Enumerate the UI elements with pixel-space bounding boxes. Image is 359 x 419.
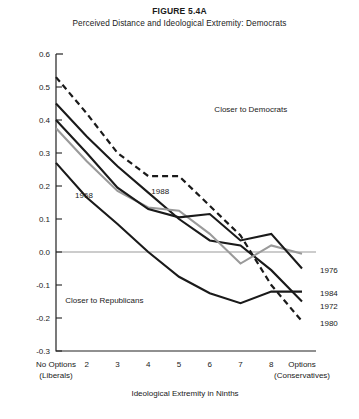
- chart-annotation: 1968: [75, 191, 93, 200]
- y-tick-label: 0.4: [39, 116, 51, 125]
- y-tick-label: -0.2: [36, 314, 50, 323]
- x-axis-title-text: Ideological Extremity in Ninths: [131, 389, 238, 398]
- axis-spines: [56, 54, 316, 351]
- x-tick-label: 2: [85, 360, 90, 369]
- series-end-label: 1980: [320, 319, 338, 328]
- chart-annotation: 1988: [151, 187, 169, 196]
- y-tick-label: 0.2: [39, 182, 51, 191]
- y-tick-label: 0.1: [39, 215, 51, 224]
- x-axis-tick-labels: No Options(Liberals)2345678Options(Conse…: [36, 360, 330, 380]
- chart-annotation: Closer to Democrats: [214, 105, 287, 114]
- x-axis-title: Ideological Extremity in Ninths: [131, 389, 238, 398]
- x-tick-label: 6: [208, 360, 213, 369]
- y-axis-tick-labels: 0.60.50.40.30.20.10.0-0.1-0.2-0.3: [36, 50, 50, 356]
- y-tick-label: 0.0: [39, 248, 51, 257]
- y-tick-label: -0.1: [36, 281, 50, 290]
- x-tick-label: 3: [115, 360, 120, 369]
- y-tick-label: 0.5: [39, 83, 51, 92]
- x-tick-label: No Options: [36, 360, 76, 369]
- series-end-label: 1976: [320, 266, 338, 275]
- x-tick-label-secondary: (Conservatives): [274, 371, 330, 380]
- x-tick-label: 8: [269, 360, 274, 369]
- y-tick-label: 0.6: [39, 50, 51, 59]
- y-tick-label: -0.3: [36, 347, 50, 356]
- x-tick-label-secondary: (Liberals): [39, 371, 73, 380]
- line-chart: 0.60.50.40.30.20.10.0-0.1-0.2-0.3 No Opt…: [0, 0, 359, 419]
- axis-lines: [56, 54, 316, 351]
- series-end-label: 1972: [320, 302, 338, 311]
- series-end-labels: 1976198419721980: [320, 266, 338, 328]
- y-tick-label: 0.3: [39, 149, 51, 158]
- series-line-1988: [56, 128, 302, 263]
- chart-plot-area: 0.60.50.40.30.20.10.0-0.1-0.2-0.3 No Opt…: [0, 0, 359, 419]
- x-tick-label: Options: [288, 360, 316, 369]
- x-tick-label: 7: [238, 360, 243, 369]
- series-end-label: 1984: [320, 289, 338, 298]
- series-line-1984: [56, 163, 302, 303]
- x-tick-label: 4: [146, 360, 151, 369]
- figure-container: FIGURE 5.4A Perceived Distance and Ideol…: [0, 0, 359, 419]
- chart-annotation: Closer to Republicans: [65, 296, 143, 305]
- x-tick-label: 5: [177, 360, 182, 369]
